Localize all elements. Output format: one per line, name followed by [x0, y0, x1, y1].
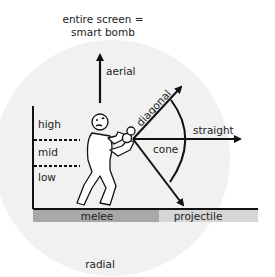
projectile-label: projectile: [174, 210, 223, 222]
melee-label: melee: [81, 210, 114, 222]
radial-label: radial: [85, 258, 115, 270]
smart-bomb-label-line2: smart bomb: [71, 26, 135, 38]
high-label: high: [38, 118, 61, 130]
straight-label: straight: [193, 124, 234, 136]
smart-bomb-label-line1: entire screen =: [62, 13, 143, 25]
mid-label: mid: [38, 146, 58, 158]
low-label: low: [38, 171, 56, 183]
attack-types-diagram: entire screen = smart bomb aerial high m…: [0, 0, 275, 277]
aerial-label: aerial: [106, 65, 135, 77]
cone-label: cone: [153, 143, 178, 155]
